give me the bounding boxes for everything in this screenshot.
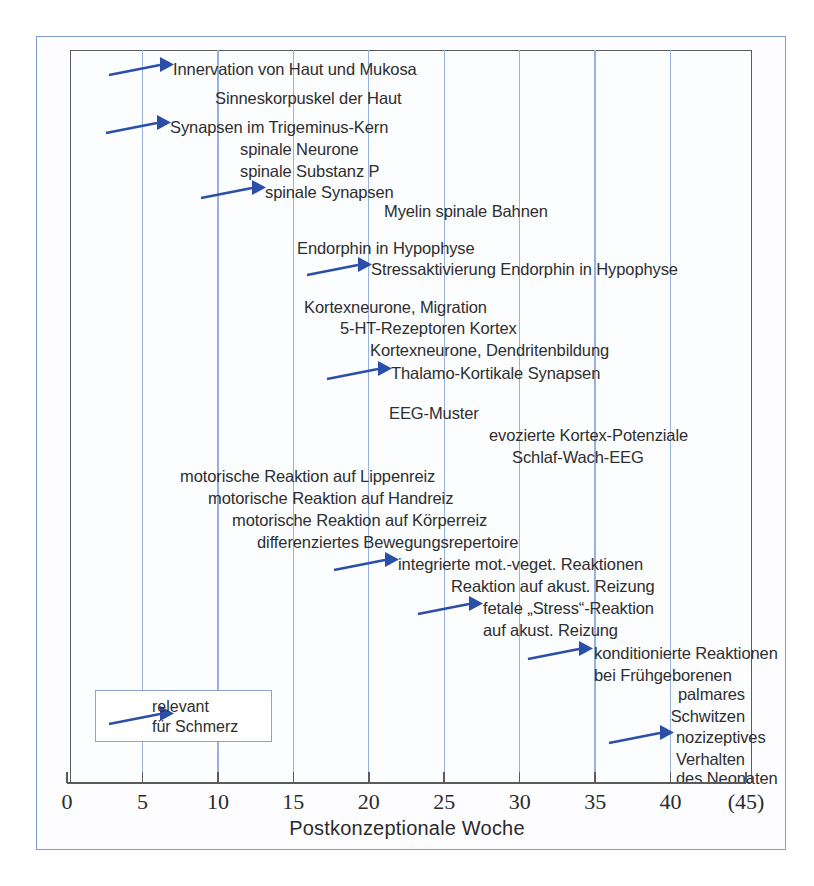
x-axis-tick-0 [66,772,68,783]
event-label-palmares-line1: palmares [608,684,745,705]
arrow-spinale-synapsen [200,179,268,201]
event-label-motorische-reaktion-lippenreiz: motorische Reaktion auf Lippenreiz [180,466,435,487]
event-label-differenziertes-bewegungsrepertoire: differenziertes Bewegungsrepertoire [257,532,518,553]
event-label-kortexneurone-migration: Kortexneurone, Migration [304,297,487,318]
event-label-konditionierte-reaktionen-line1: konditionierte Reaktionen [594,643,778,664]
arrow-konditionierte-reaktionen [527,640,595,662]
x-axis-tick-label-25: 25 [433,789,455,815]
event-label-konditionierte-reaktionen-line2: bei Frühgeborenen [594,665,732,686]
x-axis-tick-5 [142,772,144,783]
x-axis-tick-15 [293,772,295,783]
x-axis-tick-label-35: 35 [584,789,606,815]
event-label-innervation-haut-mukosa: Innervation von Haut und Mukosa [173,59,417,80]
x-axis-tick-label-40: 40 [660,789,682,815]
event-label-spinale-synapsen: spinale Synapsen [265,182,394,203]
gridline-week-20 [368,50,369,783]
x-axis-tick-label-45: (45) [728,789,765,815]
event-label-sinneskorpuskel-haut: Sinneskorpuskel der Haut [215,88,402,109]
x-axis-tick-25 [443,772,445,783]
x-axis-tick-10 [217,772,219,783]
event-label-synapsen-trigeminus-kern: Synapsen im Trigeminus-Kern [170,117,388,138]
x-axis-tick-30 [519,772,521,783]
arrow-synapsen-trigeminus-kern [105,114,173,136]
x-axis-tick-label-15: 15 [282,789,304,815]
gridline-week-30 [519,50,520,783]
x-axis-tick-label-0: 0 [62,789,73,815]
event-label-nozizeptives-line2: Verhalten [676,749,745,770]
event-label-schlaf-wach-eeg: Schlaf-Wach-EEG [512,447,644,468]
arrow-stressaktivierung-endorphin [306,256,374,278]
gridline-week-10 [217,50,218,783]
x-axis-tick-label-20: 20 [358,789,380,815]
arrow-thalamo-kortikale-synapsen [326,360,394,382]
x-axis-tick-45 [745,772,747,783]
figure-root: Innervation von Haut und Mukosa Sinnesko… [0,0,814,886]
event-label-eeg-muster: EEG-Muster [389,403,479,424]
x-axis-tick-label-5: 5 [137,789,148,815]
event-label-evozierte-kortex-potenziale: evozierte Kortex-Potenziale [489,425,688,446]
event-label-kortexneurone-dendritenbildung: Kortexneurone, Dendritenbildung [370,340,609,361]
event-label-fetale-stress-reaktion-line1: fetale „Stress“-Reaktion [483,598,654,619]
x-axis-tick-40 [670,772,672,783]
event-label-nozizeptives-line3: des Neonaten [676,768,778,789]
event-label-motorische-reaktion-koerperreiz: motorische Reaktion auf Körperreiz [232,510,487,531]
x-axis-tick-35 [594,772,596,783]
legend-label: relevant für Schmerz [152,697,238,737]
arrow-innervation-haut-mukosa [108,56,176,78]
event-label-5ht-rezeptoren-kortex: 5-HT-Rezeptoren Kortex [340,318,517,339]
x-axis-tick-label-30: 30 [509,789,531,815]
event-label-reaktion-akust-reizung: Reaktion auf akust. Reizung [451,576,655,597]
event-label-myelin-spinale-bahnen: Myelin spinale Bahnen [384,201,548,222]
event-label-fetale-stress-reaktion-line2: auf akust. Reizung [483,620,618,641]
arrow-integrierte-mot-veget-reaktionen [333,551,401,573]
event-label-spinale-neurone: spinale Neurone [240,139,359,160]
event-label-integrierte-mot-veget-reaktionen: integrierte mot.-veget. Reaktionen [398,554,643,575]
x-axis-title: Postkonzeptionale Woche [0,817,814,840]
event-label-nozizeptives-line1: nozizeptives [676,727,766,748]
gridline-week-5 [142,50,143,783]
event-label-motorische-reaktion-handreiz: motorische Reaktion auf Handreiz [208,488,453,509]
event-label-stressaktivierung-endorphin: Stressaktivierung Endorphin in Hypophyse [371,259,678,280]
arrow-nozizeptives-verhalten [608,724,676,746]
event-label-thalamo-kortikale-synapsen: Thalamo-Kortikale Synapsen [391,363,600,384]
x-axis-line [67,782,746,784]
x-axis-tick-label-10: 10 [207,789,229,815]
arrow-fetale-stress-reaktion [417,595,485,617]
x-axis-tick-20 [368,772,370,783]
